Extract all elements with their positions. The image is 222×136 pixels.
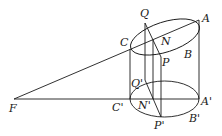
label-Q: Q bbox=[140, 7, 149, 20]
label-C: C bbox=[120, 36, 129, 49]
label-N: N bbox=[160, 35, 171, 48]
label-C-prime: C' bbox=[112, 101, 123, 114]
label-B-prime: B' bbox=[188, 112, 200, 125]
label-F: F bbox=[8, 102, 17, 115]
cylinder-diagram: Q A C N B P Q' F C' N' A' P' B' bbox=[0, 0, 222, 136]
label-P: P bbox=[161, 56, 170, 69]
label-A-prime: A' bbox=[200, 95, 212, 108]
label-A: A bbox=[201, 12, 210, 25]
label-N-prime: N' bbox=[137, 99, 151, 112]
line-FA bbox=[14, 20, 199, 99]
label-B: B bbox=[183, 48, 192, 61]
label-P-prime: P' bbox=[153, 119, 164, 132]
label-Q-prime: Q' bbox=[131, 77, 143, 90]
